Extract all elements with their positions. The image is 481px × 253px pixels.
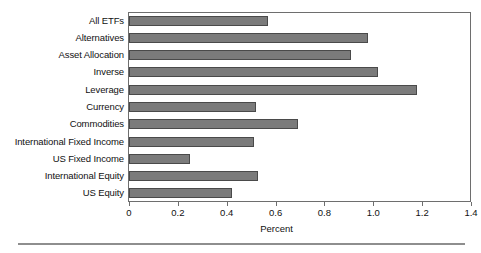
x-axis-tick-label: 0.8	[304, 207, 344, 218]
x-axis-tick-label: 0.6	[256, 207, 296, 218]
x-axis-tick-label: 1.4	[451, 207, 481, 218]
x-axis-tick-label: 0.4	[207, 207, 247, 218]
bar	[129, 188, 232, 198]
x-axis-tick-label: 0.2	[158, 207, 198, 218]
y-axis-label: Currency	[0, 102, 124, 112]
bar	[129, 102, 256, 112]
x-axis-title: Percent	[0, 223, 481, 234]
bar	[129, 16, 268, 26]
bar	[129, 33, 368, 43]
y-axis-label: Inverse	[0, 67, 124, 77]
x-axis-tick-mark	[373, 202, 374, 206]
y-axis-label: US Equity	[0, 188, 124, 198]
y-axis-label: International Equity	[0, 171, 124, 181]
y-axis-label: Commodities	[0, 119, 124, 129]
y-axis-label: All ETFs	[0, 16, 124, 26]
bar	[129, 50, 351, 60]
x-axis-tick-mark	[227, 202, 228, 206]
y-axis-label: Leverage	[0, 85, 124, 95]
x-axis-tick-mark	[276, 202, 277, 206]
y-axis-label: International Fixed Income	[0, 137, 124, 147]
x-axis-tick-mark	[324, 202, 325, 206]
chart-figure: All ETFsAlternativesAsset AllocationInve…	[0, 0, 481, 253]
bar	[129, 119, 298, 129]
bar-series	[129, 12, 471, 202]
footer-divider	[18, 243, 465, 245]
bar	[129, 67, 378, 77]
x-axis-tick-mark	[471, 202, 472, 206]
y-axis-category-labels: All ETFsAlternativesAsset AllocationInve…	[0, 12, 124, 202]
y-axis-label: US Fixed Income	[0, 154, 124, 164]
bar	[129, 85, 417, 95]
bar	[129, 171, 258, 181]
bar	[129, 154, 190, 164]
y-axis-label: Alternatives	[0, 33, 124, 43]
bar	[129, 137, 254, 147]
x-axis-tick-mark	[178, 202, 179, 206]
x-axis-tick-label: 1.2	[402, 207, 442, 218]
y-axis-label: Asset Allocation	[0, 50, 124, 60]
x-axis-tick-mark	[422, 202, 423, 206]
x-axis-tick-mark	[129, 202, 130, 206]
x-axis-tick-label: 1.0	[353, 207, 393, 218]
x-axis-tick-label: 0	[109, 207, 149, 218]
